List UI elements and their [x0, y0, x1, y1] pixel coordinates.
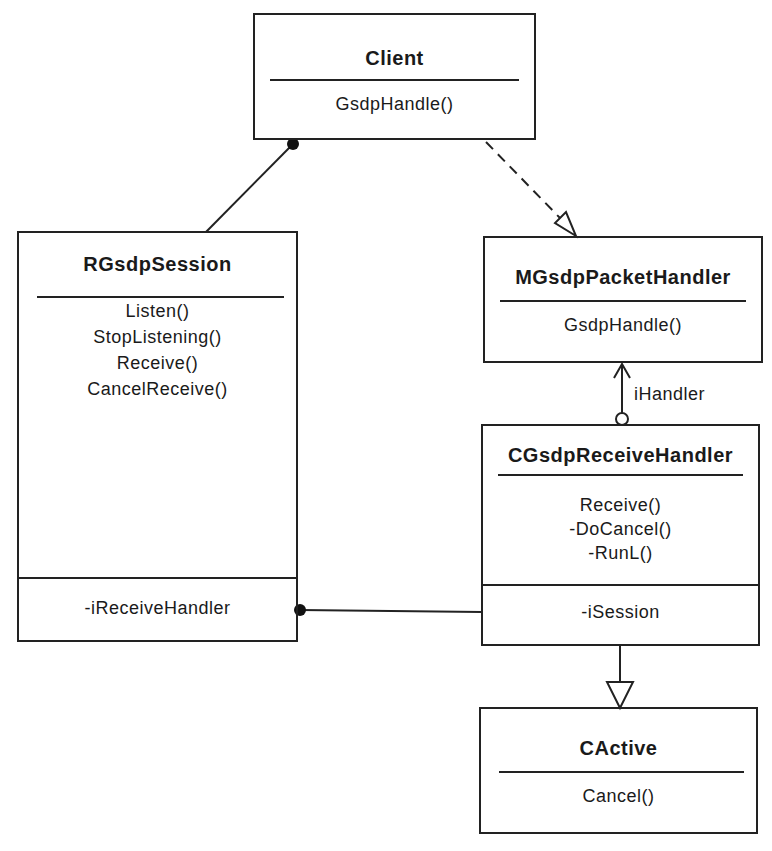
attributes-divider: [483, 584, 758, 586]
class-client: Client GsdpHandle(): [253, 13, 536, 140]
attribute: -iReceiveHandler: [19, 598, 296, 619]
class-rule: [270, 79, 519, 81]
operations: Receive() -DoCancel() -RunL(): [483, 493, 758, 565]
operation: -RunL(): [483, 541, 758, 565]
ihandler-label: iHandler: [634, 384, 705, 405]
realization-client-handler: [486, 142, 560, 218]
class-cactive: CActive Cancel(): [479, 707, 758, 834]
class-mgsdppackethandler: MGsdpPacketHandler GsdpHandle(): [483, 236, 763, 363]
class-rule: [498, 474, 743, 476]
operation: Listen(): [19, 298, 296, 324]
operations: GsdpHandle(): [485, 313, 761, 337]
operation: Receive(): [483, 493, 758, 517]
operations: Listen() StopListening() Receive() Cance…: [19, 298, 296, 402]
association-session-receivehandler: [300, 610, 482, 612]
class-name: Client: [255, 47, 534, 70]
operation: GsdpHandle(): [255, 92, 534, 116]
attribute: -iSession: [483, 602, 758, 623]
operations: GsdpHandle(): [255, 92, 534, 116]
operation: Receive(): [19, 350, 296, 376]
attributes: -iReceiveHandler: [19, 598, 296, 619]
attributes-divider: [19, 577, 296, 579]
class-name: CGsdpReceiveHandler: [483, 444, 758, 467]
class-rule: [499, 771, 744, 773]
association-client-session: [206, 144, 293, 232]
class-name: CActive: [481, 737, 756, 760]
operation: GsdpHandle(): [485, 313, 761, 337]
attributes: -iSession: [483, 602, 758, 623]
operations: Cancel(): [481, 784, 756, 808]
class-name: RGsdpSession: [19, 253, 296, 276]
class-name: MGsdpPacketHandler: [485, 266, 761, 289]
operation: CancelReceive(): [19, 376, 296, 402]
class-rgsdpsession: RGsdpSession Listen() StopListening() Re…: [17, 231, 298, 642]
hollow-triangle-generalization-icon: [607, 682, 633, 708]
class-cgsdpreceivehandler: CGsdpReceiveHandler Receive() -DoCancel(…: [481, 424, 760, 646]
operation: -DoCancel(): [483, 517, 758, 541]
class-rule: [37, 296, 284, 298]
class-rule: [500, 300, 746, 302]
operation: Cancel(): [481, 784, 756, 808]
operation: StopListening(): [19, 324, 296, 350]
